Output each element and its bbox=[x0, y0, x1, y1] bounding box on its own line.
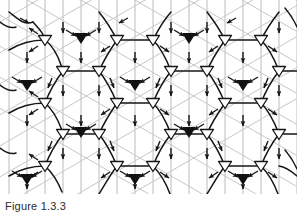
figure-caption: Figure 1.3.3 bbox=[5, 200, 66, 213]
figure-container: Figure 1.3.3 bbox=[0, 0, 297, 219]
lattice-flow-diagram bbox=[0, 0, 297, 194]
